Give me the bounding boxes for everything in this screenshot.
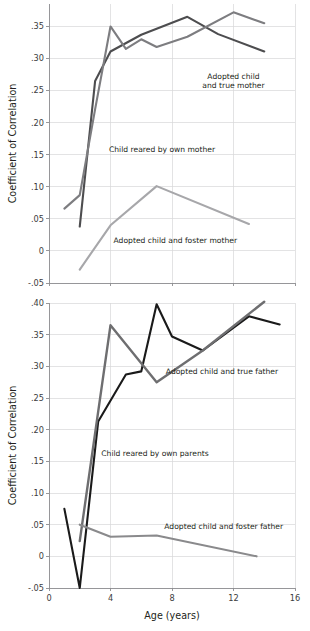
x-tick-label: 8 (169, 593, 174, 603)
series-label-2: Adopted child and foster mother (114, 236, 238, 245)
y-tick-label: .15 (31, 456, 44, 466)
y-tick-label: .25 (31, 393, 44, 403)
y-tick-label: .25 (31, 85, 44, 95)
series-line-2 (80, 186, 249, 269)
series-label-0: Child reared by own mother (109, 145, 216, 154)
y-axis-title: Coefficient of Correlation (7, 84, 18, 204)
y-tick-label: .10 (31, 182, 44, 192)
chart-svg-fathers: -.050.05.10.15.20.25.30.35.400481216Coef… (0, 290, 310, 631)
x-tick-label: 0 (46, 593, 51, 603)
y-axis-title: Coefficient of Correlation (7, 386, 18, 506)
series-group (64, 12, 264, 269)
x-tick-label: 16 (290, 593, 300, 603)
series-label-1: Adopted child and true father (166, 367, 279, 376)
y-tick-label: .30 (31, 53, 44, 63)
y-tick-label: .05 (31, 214, 44, 224)
y-tick-label: .35 (31, 330, 44, 340)
y-tick-label: .30 (31, 361, 44, 371)
y-tick-label: -.05 (28, 583, 44, 593)
y-axis-ticks: -.050.05.10.15.20.25.30.35 (28, 21, 49, 288)
y-tick-label: 0 (39, 246, 44, 256)
x-axis-ticks (49, 283, 295, 286)
chart-panel-mothers: -.050.05.10.15.20.25.30.35Coefficient of… (0, 0, 310, 290)
gridlines-group (49, 303, 295, 588)
y-tick-label: .05 (31, 520, 44, 530)
y-tick-label: .15 (31, 150, 44, 160)
series-label-2: Adopted child and foster father (164, 522, 284, 531)
y-tick-label: .20 (31, 425, 44, 435)
series-line-1 (64, 12, 264, 208)
y-axis-ticks: -.050.05.10.15.20.25.30.35.40 (28, 298, 49, 593)
series-labels-group: Child reared by own motherAdopted childa… (109, 72, 266, 245)
correlation-figure: -.050.05.10.15.20.25.30.35Coefficient of… (0, 0, 310, 631)
y-tick-label: 0 (39, 551, 44, 561)
y-tick-label: .40 (31, 298, 44, 308)
x-axis-ticks: 0481216 (46, 588, 300, 603)
series-labels-group: Child reared by own parentsAdopted child… (101, 367, 284, 531)
y-tick-label: .20 (31, 118, 44, 128)
x-tick-label: 4 (108, 593, 113, 603)
y-tick-label: -.05 (28, 278, 44, 288)
y-tick-label: .10 (31, 488, 44, 498)
series-label-1: and true mother (202, 81, 265, 90)
y-tick-label: .35 (31, 21, 44, 31)
chart-svg-mothers: -.050.05.10.15.20.25.30.35Coefficient of… (0, 0, 310, 290)
x-tick-label: 12 (228, 593, 238, 603)
chart-panel-fathers: -.050.05.10.15.20.25.30.35.400481216Coef… (0, 290, 310, 631)
series-label-1: Adopted child (207, 72, 259, 81)
series-label-0: Child reared by own parents (101, 449, 208, 458)
x-axis-title: Age (years) (144, 610, 200, 621)
